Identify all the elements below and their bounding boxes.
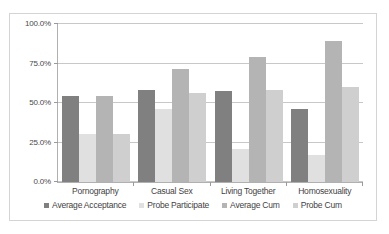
chart-legend: Average AcceptanceProbe ParticipateAvera… [10,200,376,210]
bar-casual-sex-average-cum[interactable] [172,69,189,182]
plot-area: 0.0%25.0%50.0%75.0%100.0% [57,24,363,183]
legend-swatch-icon [293,203,298,208]
legend-label: Average Acceptance [52,200,126,210]
bar-group-homosexuality [287,24,363,182]
bars-layer [58,24,363,182]
bar-group-living-together [211,24,287,182]
bar-living-together-probe-participate[interactable] [232,149,249,182]
legend-swatch-icon [44,203,49,208]
legend-label: Average Cum [230,200,280,210]
bar-casual-sex-probe-cum[interactable] [189,93,206,182]
legend-item-average-acceptance[interactable]: Average Acceptance [44,200,126,210]
bar-homosexuality-probe-participate[interactable] [308,155,325,182]
bar-pornography-average-acceptance[interactable] [62,96,79,182]
bar-casual-sex-probe-participate[interactable] [155,109,172,182]
bar-homosexuality-average-acceptance[interactable] [291,109,308,182]
x-axis-labels: PornographyCasual SexLiving TogetherHomo… [57,186,363,196]
legend-label: Probe Participate [147,200,209,210]
x-axis-label-casual-sex: Casual Sex [134,186,211,196]
x-axis-label-living-together: Living Together [210,186,287,196]
bar-homosexuality-average-cum[interactable] [325,41,342,182]
x-axis-label-homosexuality: Homosexuality [287,186,364,196]
bar-living-together-average-cum[interactable] [249,57,266,182]
legend-item-average-cum[interactable]: Average Cum [222,200,280,210]
bar-casual-sex-average-acceptance[interactable] [138,90,155,182]
y-axis-tick-label: 50.0% [29,98,51,107]
legend-swatch-icon [139,203,144,208]
legend-item-probe-participate[interactable]: Probe Participate [139,200,209,210]
y-axis-tick-label: 75.0% [29,58,51,67]
legend-item-probe-cum[interactable]: Probe Cum [293,200,342,210]
bar-living-together-average-acceptance[interactable] [215,91,232,182]
legend-label: Probe Cum [301,200,342,210]
x-axis-label-pornography: Pornography [57,186,134,196]
bar-group-pornography [58,24,134,182]
y-axis-tick-label: 100.0% [25,19,51,28]
chart-frame: 0.0%25.0%50.0%75.0%100.0% PornographyCas… [9,13,377,221]
y-axis-tick-label: 25.0% [29,137,51,146]
bar-pornography-probe-participate[interactable] [79,134,96,182]
y-axis-tick-label: 0.0% [34,177,51,186]
bar-living-together-probe-cum[interactable] [266,90,283,182]
bar-homosexuality-probe-cum[interactable] [342,87,359,182]
legend-swatch-icon [222,203,227,208]
bar-group-casual-sex [134,24,210,182]
bar-pornography-probe-cum[interactable] [113,134,130,182]
bar-pornography-average-cum[interactable] [96,96,113,182]
